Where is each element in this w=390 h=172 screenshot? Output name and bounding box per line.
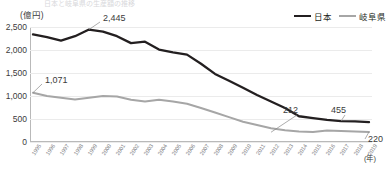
annotation-220: 220 [368, 134, 383, 144]
annotation-1071: 1,071 [45, 75, 68, 85]
annotation-2445: 2,445 [103, 13, 126, 23]
annotation-455: 455 [331, 105, 346, 115]
annotation-leader-lines [0, 0, 390, 172]
annotation-212: 212 [283, 105, 298, 115]
chart-root: 日本と岐阜県の生産額の推移 (億円) 日本 岐阜県 05001,0001,500… [0, 0, 390, 172]
